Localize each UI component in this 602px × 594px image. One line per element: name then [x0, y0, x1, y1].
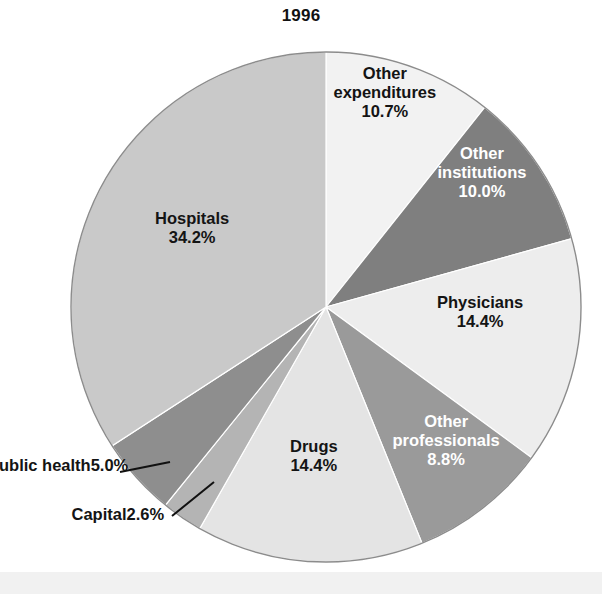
slice-label-value: 2.6% — [127, 505, 165, 523]
slice-label-name: Capital — [72, 505, 127, 523]
pie-chart-figure: 1996 Otherexpenditures10.7%Otherinstitut… — [0, 0, 602, 594]
bottom-edge-band — [0, 572, 602, 594]
pie-slices — [71, 52, 581, 562]
slice-label-value: 5.0% — [91, 456, 129, 474]
slice-label-name: Public health — [0, 456, 91, 474]
slice-label: Capital2.6% — [72, 505, 165, 524]
slice-label: Public health5.0% — [0, 456, 128, 475]
